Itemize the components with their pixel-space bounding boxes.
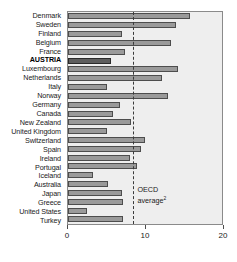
- bar-row: [68, 153, 222, 162]
- bar-chart: DenmarkSwedenFinlandBelgiumFranceAUSTRIA…: [0, 0, 237, 262]
- bar: [68, 58, 111, 64]
- category-label: Portugal: [0, 163, 64, 172]
- bar: [68, 181, 108, 187]
- category-label: Iceland: [0, 172, 64, 181]
- bar-row: [68, 118, 222, 127]
- bar-row: [68, 21, 222, 30]
- bar: [68, 66, 178, 72]
- category-label: AUSTRIA: [0, 56, 64, 65]
- category-label: Italy: [0, 82, 64, 91]
- bar: [68, 84, 107, 90]
- category-label: Belgium: [0, 38, 64, 47]
- x-axis: 01020: [67, 225, 223, 249]
- category-label: Finland: [0, 29, 64, 38]
- bar-row: [68, 100, 222, 109]
- category-label: Ireland: [0, 154, 64, 163]
- bar-row: [68, 83, 222, 92]
- bar: [68, 208, 87, 214]
- bar-row: [68, 197, 222, 206]
- bar-row: [68, 180, 222, 189]
- category-label: Australia: [0, 181, 64, 190]
- category-label: New Zealand: [0, 118, 64, 127]
- bar: [68, 49, 125, 55]
- category-label: Switzerland: [0, 136, 64, 145]
- category-label: Luxembourg: [0, 65, 64, 74]
- bar: [68, 40, 171, 46]
- bar-row: [68, 74, 222, 83]
- bar-row: [68, 215, 222, 224]
- category-label: Germany: [0, 100, 64, 109]
- category-label: Spain: [0, 145, 64, 154]
- bar-row: [68, 206, 222, 215]
- bar: [68, 155, 130, 161]
- category-label: Japan: [0, 189, 64, 198]
- x-axis-tick-label: 10: [141, 231, 150, 240]
- bar: [68, 190, 122, 196]
- bar-row: [68, 144, 222, 153]
- category-axis-labels: DenmarkSwedenFinlandBelgiumFranceAUSTRIA…: [0, 11, 64, 225]
- bar-row: [68, 56, 222, 65]
- bar: [68, 31, 122, 37]
- category-label: Sweden: [0, 20, 64, 29]
- bar-row: [68, 30, 222, 39]
- bar: [68, 146, 141, 152]
- x-axis-tick: [67, 225, 68, 229]
- bar: [68, 111, 113, 117]
- plot-area: OECDaverage2: [67, 11, 223, 225]
- bar: [68, 75, 162, 81]
- x-axis-tick: [223, 225, 224, 229]
- bar-row: [68, 65, 222, 74]
- bar: [68, 163, 137, 169]
- bar: [68, 128, 107, 134]
- x-axis-tick-label: 0: [65, 231, 69, 240]
- category-label: Denmark: [0, 11, 64, 20]
- bar: [68, 102, 120, 108]
- bar-row: [68, 91, 222, 100]
- category-label: United States: [0, 207, 64, 216]
- bar-row: [68, 47, 222, 56]
- bar-row: [68, 162, 222, 171]
- bar-row: [68, 171, 222, 180]
- bar-row: [68, 38, 222, 47]
- category-label: United Kingdom: [0, 127, 64, 136]
- bar-row: [68, 127, 222, 136]
- bar-row: [68, 109, 222, 118]
- bar-row: [68, 189, 222, 198]
- bars-layer: [68, 12, 222, 224]
- bar: [68, 119, 131, 125]
- x-axis-tick: [145, 225, 146, 229]
- bar-row: [68, 12, 222, 21]
- oecd-average-line: [133, 12, 134, 224]
- bar: [68, 199, 123, 205]
- x-axis-tick-label: 20: [219, 231, 228, 240]
- bar: [68, 22, 176, 28]
- bar: [68, 172, 93, 178]
- category-label: Greece: [0, 198, 64, 207]
- bar-row: [68, 136, 222, 145]
- bar: [68, 13, 190, 19]
- category-label: France: [0, 47, 64, 56]
- category-label: Netherlands: [0, 73, 64, 82]
- bar: [68, 216, 123, 222]
- category-label: Canada: [0, 109, 64, 118]
- bar: [68, 93, 168, 99]
- category-label: Norway: [0, 91, 64, 100]
- category-label: Turkey: [0, 216, 64, 225]
